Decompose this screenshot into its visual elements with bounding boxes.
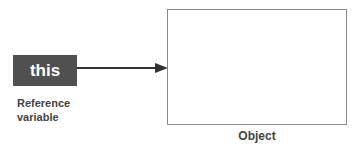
reference-caption-line2: variable: [17, 110, 70, 124]
reference-variable-caption: Reference variable: [17, 96, 70, 124]
arrow-icon: [77, 62, 169, 74]
reference-variable-label: this: [30, 61, 60, 81]
reference-caption-line1: Reference: [17, 96, 70, 110]
reference-variable-box: this: [13, 55, 77, 86]
object-caption: Object: [167, 129, 347, 143]
object-box: [167, 9, 347, 125]
